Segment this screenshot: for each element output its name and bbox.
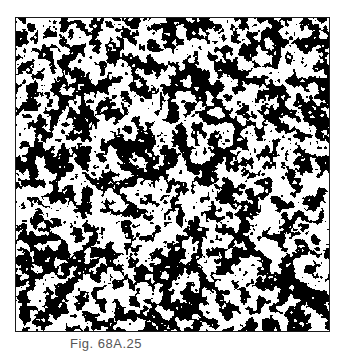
- figure-caption: Fig. 68A.25: [70, 336, 142, 351]
- noise-texture: [16, 18, 329, 331]
- figure-image: [15, 17, 330, 332]
